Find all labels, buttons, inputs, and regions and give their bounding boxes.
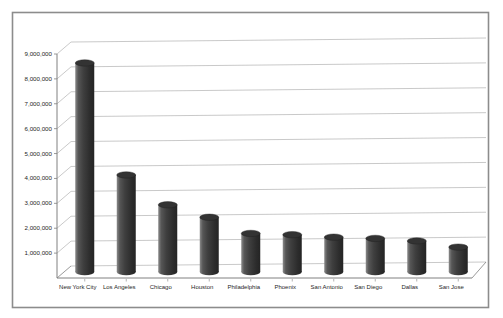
cylinder-body: [158, 205, 177, 272]
cylinder-top-cap: [200, 214, 219, 220]
x-axis-category-label: New York City: [59, 284, 96, 290]
bar-houston: [200, 214, 219, 275]
bar-san-jose: [449, 244, 468, 275]
x-axis-category-label: Los Angeles: [103, 284, 136, 290]
chart-canvas: 1,000,0002,000,0003,000,0004,000,0005,00…: [0, 0, 503, 318]
cylinder-body: [200, 217, 219, 272]
bar-philadelphia: [241, 230, 260, 275]
cylinder-top-cap: [117, 172, 136, 178]
cylinder-body: [241, 233, 260, 272]
cylinder-body: [407, 241, 426, 272]
cylinder-top-cap: [407, 238, 426, 244]
x-axis-category-label: Phoenix: [274, 284, 296, 290]
y-axis-tick-label: 7,000,000: [24, 100, 52, 107]
cylinder-top-cap: [324, 234, 343, 240]
x-axis-category-label: Houston: [191, 284, 213, 290]
cylinder-body: [117, 175, 136, 272]
cylinder-body: [449, 247, 468, 272]
bar-san-diego: [366, 235, 385, 275]
cylinder-body: [366, 238, 385, 272]
bar-chicago: [158, 202, 177, 276]
bar-los-angeles: [117, 172, 136, 275]
cylinder-top-cap: [75, 60, 94, 66]
bar-san-antonio: [324, 234, 343, 275]
cylinder-top-cap: [283, 231, 302, 237]
cylinder-body: [324, 237, 343, 272]
cylinder-top-cap: [158, 202, 177, 208]
bar-new-york-city: [75, 60, 94, 275]
x-axis-category-label: San Jose: [439, 284, 465, 290]
x-axis-category-label: Chicago: [150, 284, 173, 290]
y-axis-tick-label: 5,000,000: [24, 150, 52, 157]
bar-dallas: [407, 238, 426, 276]
cylinder-top-cap: [449, 244, 468, 250]
bar-phoenix: [283, 231, 302, 275]
x-axis-category-label: San Antonio: [311, 284, 344, 290]
x-axis-category-label: San Diego: [354, 284, 383, 290]
cylinder-top-cap: [366, 235, 385, 241]
x-axis-category-label: Dallas: [401, 284, 418, 290]
y-axis-tick-label: 9,000,000: [24, 50, 52, 57]
y-axis-tick-label: 8,000,000: [24, 75, 52, 82]
y-axis-tick-label: 1,000,000: [24, 249, 52, 256]
x-axis-category-label: Philadelphia: [227, 284, 260, 290]
y-axis-tick-label: 2,000,000: [24, 224, 52, 231]
y-axis-tick-label: 4,000,000: [24, 174, 52, 181]
y-axis-tick-label: 6,000,000: [24, 125, 52, 132]
population-bar-chart[interactable]: 1,000,0002,000,0003,000,0004,000,0005,00…: [0, 0, 503, 318]
cylinder-body: [75, 63, 94, 272]
y-axis-tick-label: 3,000,000: [24, 199, 52, 206]
cylinder-body: [283, 235, 302, 272]
cylinder-top-cap: [241, 230, 260, 236]
